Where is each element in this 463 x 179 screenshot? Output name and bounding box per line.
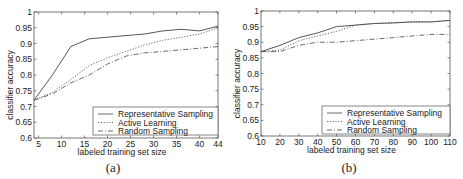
legend-label: Random Sampling: [347, 125, 417, 135]
y-tick-label: 0.95: [242, 22, 259, 32]
x-tick-label: 40: [195, 139, 205, 149]
y-tick-label: 0.8: [247, 69, 259, 79]
x-tick-label: 10: [57, 139, 67, 149]
y-tick-label: 0.6: [20, 133, 32, 143]
figure-caption: (b): [341, 160, 356, 175]
legend: Representative SamplingActive LearningRa…: [93, 107, 218, 136]
y-tick-label: 0.9: [20, 39, 32, 49]
legend-label: Random Sampling: [118, 126, 188, 136]
y-tick-label: 0.85: [15, 54, 32, 64]
y-tick-label: 0.95: [15, 23, 32, 33]
x-tick-label: 100: [424, 137, 438, 147]
legend: Representative SamplingActive LearningRa…: [322, 106, 450, 135]
x-axis-label: labeled training set size: [307, 145, 396, 155]
y-tick-label: 0.75: [15, 86, 32, 96]
y-tick-label: 0.85: [242, 53, 259, 63]
figure-caption: (a): [106, 160, 120, 175]
y-tick-label: 0.65: [15, 117, 32, 127]
x-tick-label: 44: [213, 139, 223, 149]
x-tick-label: 35: [172, 139, 182, 149]
y-tick-label: 0.65: [242, 115, 259, 125]
y-tick-label: 0.7: [247, 100, 259, 110]
y-axis-label: classifier accuracy: [232, 48, 242, 118]
x-tick-label: 5: [36, 139, 41, 149]
x-tick-label: 30: [294, 137, 304, 147]
y-tick-label: 0.7: [20, 102, 32, 112]
y-tick-label: 0.9: [247, 37, 259, 47]
chart-a: 510152025303540440.60.650.70.750.80.850.…: [5, 7, 223, 175]
y-tick-label: 1: [27, 7, 32, 17]
chart-b: 1020304050607080901001100.60.650.70.750.…: [232, 6, 457, 175]
y-axis-label: classifier accuracy: [5, 50, 15, 120]
x-axis-label: labeled training set size: [78, 147, 167, 157]
x-tick-label: 90: [407, 137, 417, 147]
y-tick-label: 0.75: [242, 84, 259, 94]
y-tick-label: 1: [254, 6, 259, 16]
y-tick-label: 0.6: [247, 131, 259, 141]
x-tick-label: 20: [275, 137, 285, 147]
x-tick-label: 110: [443, 137, 457, 147]
figure-canvas: 510152025303540440.60.650.70.750.80.850.…: [0, 0, 463, 179]
y-tick-label: 0.8: [20, 70, 32, 80]
